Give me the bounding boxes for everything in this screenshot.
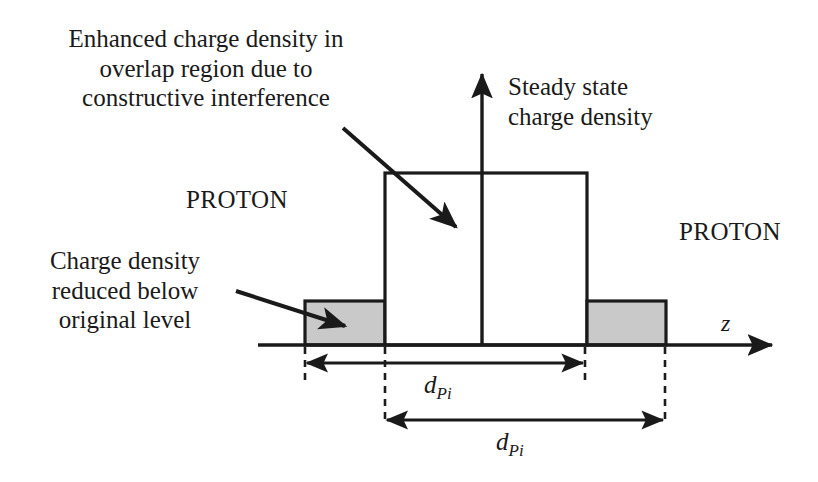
annotation-steady-state-charge-density: Steady state charge density bbox=[508, 72, 748, 131]
charge-density-figure: Enhanced charge density in overlap regio… bbox=[0, 0, 818, 482]
dimension-label-inner-base: d bbox=[424, 371, 437, 398]
dimension-label-inner-subscript: Pi bbox=[437, 384, 452, 403]
dimension-label-outer-subscript: Pi bbox=[509, 441, 524, 460]
dimension-label-inner: dPi bbox=[424, 371, 452, 404]
z-axis-label: z bbox=[721, 310, 730, 337]
label-proton-left: PROTON bbox=[186, 186, 288, 214]
label-proton-right: PROTON bbox=[679, 218, 781, 246]
reduced-density-block-left bbox=[305, 301, 385, 345]
annotation-enhanced-charge-density: Enhanced charge density in overlap regio… bbox=[6, 24, 406, 113]
reduced-density-block-right bbox=[587, 301, 666, 345]
enhanced-density-block bbox=[385, 173, 587, 345]
dimension-label-outer: dPi bbox=[496, 428, 524, 461]
dimension-label-outer-base: d bbox=[496, 428, 509, 455]
annotation-reduced-charge-density: Charge density reduced below original le… bbox=[10, 246, 240, 335]
